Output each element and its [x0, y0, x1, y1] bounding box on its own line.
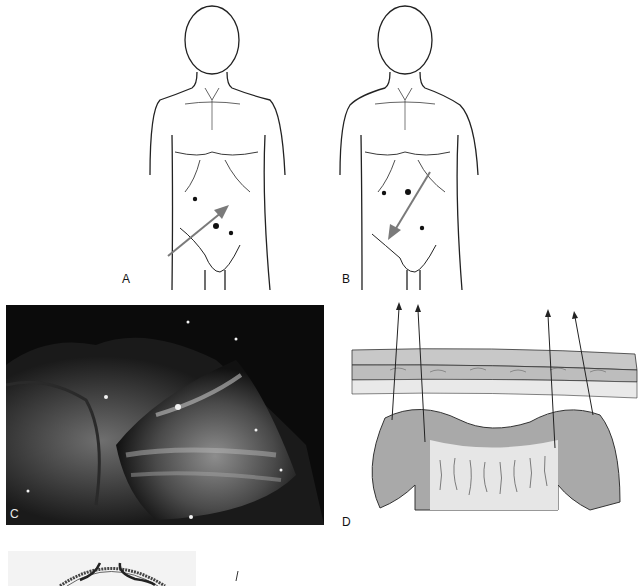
panel-label-d: D — [342, 515, 351, 529]
figure-panel-c: C — [0, 290, 330, 530]
cross-section-illustration — [0, 545, 250, 586]
abdominal-wall-suture-diagram — [330, 290, 643, 530]
panel-label-a: A — [122, 272, 130, 286]
figure-panel-a: A — [130, 0, 300, 290]
figure-panel-b: B — [330, 0, 500, 290]
panel-label-c: C — [10, 507, 19, 521]
torso-illustration-b — [330, 0, 500, 290]
torso-illustration-a — [130, 0, 300, 290]
figure-panel-e-partial — [0, 545, 250, 586]
panel-label-b: B — [342, 272, 350, 286]
figure-panel-d: D — [330, 290, 643, 530]
endoscopic-photo: C — [6, 305, 324, 525]
